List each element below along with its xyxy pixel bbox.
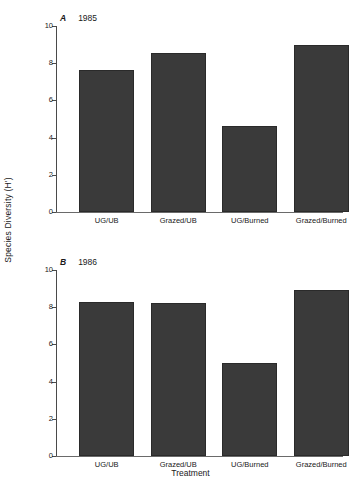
x-axis-title: Treatment <box>171 468 209 478</box>
panel-a-category-label: Grazed/Burned <box>296 217 347 225</box>
panel-b-tag: B1986 <box>60 258 97 267</box>
panel-b-letter: B <box>60 257 66 267</box>
bar[interactable] <box>151 303 206 456</box>
panel-b-ytick-label-8: 8 <box>49 303 53 311</box>
panel-a-category-label: UG/Burned <box>231 217 269 225</box>
panel-a-ytick-label-2: 2 <box>49 171 53 179</box>
panel-a-ytick-label-4: 4 <box>49 134 53 142</box>
bar[interactable] <box>79 70 134 212</box>
panel-a-plot: 10 8 6 4 2 0 <box>56 26 343 212</box>
bar[interactable] <box>79 302 134 456</box>
panel-b-bars <box>57 270 343 456</box>
panel-a-bars <box>57 26 343 212</box>
panel-a: A1985 10 8 6 4 2 <box>16 14 343 219</box>
panel-a-category-label: Grazed/UB <box>160 217 197 225</box>
panel-b-ytick-label-2: 2 <box>49 415 53 423</box>
panel-a-ytick-label-8: 8 <box>49 59 53 67</box>
panel-b: B1986 10 8 6 4 2 <box>16 258 343 463</box>
panel-b-x-axis <box>56 456 343 457</box>
panel-a-letter: A <box>60 13 66 23</box>
panel-a-year: 1985 <box>78 13 97 23</box>
bar[interactable] <box>151 53 206 212</box>
y-axis-title-wrap: Species Diversity (H') <box>0 0 16 440</box>
bar[interactable] <box>222 363 277 456</box>
bar[interactable] <box>222 126 277 212</box>
panel-b-year: 1986 <box>78 257 97 267</box>
panel-b-plot: 10 8 6 4 2 0 <box>56 270 343 456</box>
panel-b-ytick-label-0: 0 <box>49 452 53 460</box>
bar[interactable] <box>294 290 349 456</box>
bar[interactable] <box>294 45 349 212</box>
panel-b-ytick-label-6: 6 <box>49 341 53 349</box>
panel-a-tag: A1985 <box>60 14 97 23</box>
y-axis-title: Species Diversity (H') <box>3 177 13 262</box>
x-axis-title-wrap: Treatment <box>16 468 343 478</box>
panel-b-ytick-label-10: 10 <box>45 266 53 274</box>
panel-b-ytick-label-4: 4 <box>49 378 53 386</box>
panel-a-x-axis <box>56 212 343 213</box>
panel-a-ytick-label-6: 6 <box>49 97 53 105</box>
panel-a-ytick-label-10: 10 <box>45 22 53 30</box>
panel-a-ytick-label-0: 0 <box>49 208 53 216</box>
panel-a-category-label: UG/UB <box>95 217 119 225</box>
